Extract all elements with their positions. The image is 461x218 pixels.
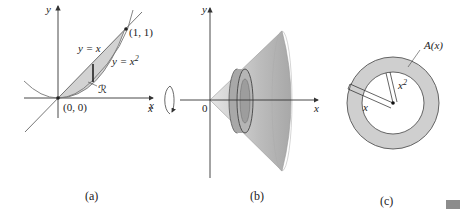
b-origin-label: 0 [202,102,208,114]
caption-c: (c) [380,194,393,208]
caption-a: (a) [85,189,98,203]
washer-slice [229,69,253,133]
region-label: ℛ [98,83,107,95]
point-1-1 [124,27,128,31]
caption-b: (b) [250,189,264,203]
center-point [391,101,395,105]
area-label: A(x) [423,39,443,52]
point-origin-label: (0, 0) [63,101,87,114]
a-y-label: y [45,3,51,15]
b-x-left-label: x [148,99,154,111]
panel-a: y x (1, 1) (0, 0) y = x y = x2 ℛ (a) [24,3,153,203]
parabola-label: y = x2 [111,54,139,67]
b-x-label: x [313,102,319,114]
panel-c: A(x) x x2 (c) [347,39,443,208]
point-top-label: (1, 1) [129,26,153,39]
page-marker [446,200,460,209]
panel-b: y x x 0 (b) [148,3,319,203]
line-label: y = x [77,42,101,54]
outer-radius-label: x [362,101,368,113]
figure-canvas: y x (1, 1) (0, 0) y = x y = x2 ℛ (a) y x… [0,0,461,218]
b-y-label: y [201,3,207,15]
point-origin [56,96,60,100]
rotation-arrow-icon [165,86,170,114]
